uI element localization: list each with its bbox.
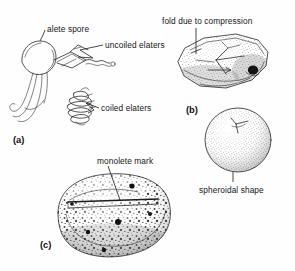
trailing-elater-filaments — [10, 72, 48, 122]
panel-a-illustration — [10, 30, 115, 125]
panel-label-a: (a) — [13, 134, 24, 145]
leader-alete-spore — [40, 30, 45, 41]
label-fold-due-to-compression: fold due to compression — [162, 16, 253, 26]
label-spheroidal-shape: spheroidal shape — [199, 185, 264, 195]
label-uncoiled-elaters: uncoiled elaters — [105, 40, 165, 50]
alete-spore-drawing — [22, 41, 56, 75]
label-coiled-elaters: coiled elaters — [101, 103, 151, 113]
spore-morphology-figure: alete spore uncoiled elaters coiled elat… — [0, 0, 295, 271]
coiled-elaters-drawing — [67, 88, 95, 125]
label-monolete-mark: monolete mark — [97, 156, 154, 166]
panel-label-b: (b) — [186, 104, 198, 115]
panel-c-monolete-spore — [50, 166, 174, 267]
panel-b-compressed-spore — [171, 28, 272, 91]
label-alete-spore: alete spore — [47, 24, 89, 34]
panel-label-c: (c) — [40, 239, 51, 250]
spheroidal-spore-drawing — [205, 108, 271, 182]
